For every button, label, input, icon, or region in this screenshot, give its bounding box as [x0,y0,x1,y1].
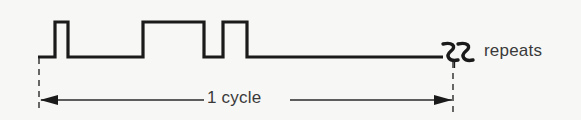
arrowhead-left-icon [40,95,58,105]
pulse-train-waveform [38,22,443,57]
waveform-break-squiggle-icon [443,43,473,68]
cycle-dimension-label: 1 cycle [207,88,261,108]
waveform-figure: repeats 1 cycle [0,0,581,120]
repeats-label: repeats [484,41,542,61]
arrowhead-right-icon [434,95,452,105]
